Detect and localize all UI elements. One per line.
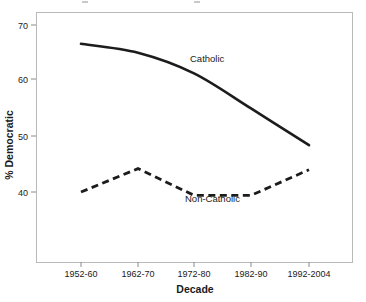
- y-tick-label-60: 60: [18, 75, 28, 85]
- plot-frame: [37, 13, 353, 263]
- scan-artifacts: [82, 1, 200, 3]
- y-tick-label-40: 40: [18, 188, 28, 198]
- chart-figure: 70 60 50 40 % Democratic 1952-60 1962-70…: [0, 0, 366, 302]
- y-axis-ticks: [31, 25, 36, 192]
- series-annotation-catholic: Catholic: [190, 53, 225, 64]
- x-tick-label-1962-70: 1962-70: [121, 269, 154, 279]
- y-tick-label-70: 70: [18, 21, 28, 31]
- series-annotation-non-catholic: Non-Catholic: [185, 193, 240, 204]
- y-axis-title: % Democratic: [3, 110, 15, 180]
- x-tick-label-1982-90: 1982-90: [234, 269, 267, 279]
- x-axis-title: Decade: [176, 283, 214, 295]
- line-chart: 70 60 50 40 % Democratic 1952-60 1962-70…: [0, 0, 366, 302]
- x-tick-label-1952-60: 1952-60: [64, 269, 97, 279]
- x-tick-label-1972-80: 1972-80: [177, 269, 210, 279]
- y-tick-label-50: 50: [18, 132, 28, 142]
- series-line-non-catholic: [81, 169, 309, 196]
- x-tick-label-1992-2004: 1992-2004: [287, 269, 330, 279]
